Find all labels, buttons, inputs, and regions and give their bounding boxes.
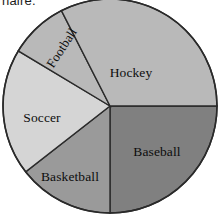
pie-slice-label-baseball: Baseball bbox=[133, 144, 180, 160]
pie-chart-page: naire. BaseballBasketballSoccerFootballH… bbox=[0, 0, 224, 220]
pie-slice-label-hockey: Hockey bbox=[110, 65, 153, 81]
pie-slices-group bbox=[3, 0, 217, 213]
pie-slice-label-soccer: Soccer bbox=[23, 110, 60, 126]
pie-slice-label-basketball: Basketball bbox=[41, 169, 99, 185]
pie-chart: BaseballBasketballSoccerFootballHockey bbox=[0, 0, 224, 220]
